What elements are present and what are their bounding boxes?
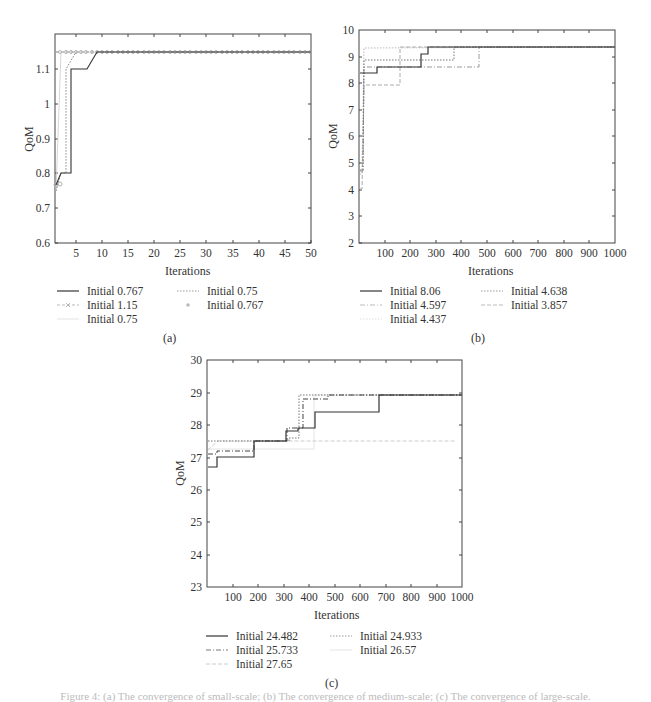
x-tick: 600 xyxy=(351,591,369,603)
dotted-light-line-icon xyxy=(360,315,382,323)
series-initial-24.933 xyxy=(208,395,462,441)
panel-label-b: (b) xyxy=(471,331,485,346)
legend-label: Initial 0.767 xyxy=(87,285,143,297)
legend-label: Initial 4.437 xyxy=(390,313,446,325)
y-tick: 0.9 xyxy=(36,133,51,145)
dotted-line-icon xyxy=(481,287,503,295)
y-tick: 7 xyxy=(348,104,354,116)
series-initial-0.75-thin xyxy=(56,52,311,191)
legend-label: Initial 24.482 xyxy=(236,630,298,642)
legend-label: Initial 25.733 xyxy=(236,644,298,656)
y-tick: 0.8 xyxy=(36,167,51,179)
legend-item: Initial 24.933 xyxy=(330,630,422,642)
thin-line-icon xyxy=(330,646,352,654)
x-tick: 300 xyxy=(275,591,293,603)
legend-item: Initial 4.638 xyxy=(481,285,567,297)
x-tick: 500 xyxy=(478,247,496,259)
legend-label: Initial 4.638 xyxy=(511,285,567,297)
legend-label: Initial 4.597 xyxy=(390,299,446,311)
x-tick: 400 xyxy=(300,591,318,603)
chart-panel-c: 23 24 25 26 27 28 29 30 100 200 300 400 … xyxy=(160,350,500,690)
legend-label: Initial 24.933 xyxy=(360,630,422,642)
x-tick: 35 xyxy=(227,247,239,259)
y-tick: 24 xyxy=(191,549,203,561)
x-tick: 300 xyxy=(427,247,445,259)
legend-item: Initial 0.75 xyxy=(57,313,137,325)
figure-caption: Figure 4: (a) The convergence of small-s… xyxy=(0,690,651,702)
dash-x-marker-icon xyxy=(57,301,79,309)
chart-panel-b: 2 3 4 5 6 7 8 9 10 100 200 300 400 500 6… xyxy=(320,0,651,360)
y-tick: 8 xyxy=(348,77,354,89)
y-tick: 1.1 xyxy=(36,63,51,75)
plot-b: 2 3 4 5 6 7 8 9 10 100 200 300 400 500 6… xyxy=(320,0,651,260)
dashdot-line-icon xyxy=(360,301,382,309)
y-tick: 27 xyxy=(191,452,203,464)
legend-item: Initial 0.75 xyxy=(177,285,257,297)
legend-a: Initial 0.767 Initial 0.75 Initial 1.15 … xyxy=(57,283,317,343)
panel-label-a: (a) xyxy=(163,331,176,346)
y-tick: 23 xyxy=(191,581,203,593)
legend-label: Initial 8.06 xyxy=(390,285,440,297)
dashed-line-icon xyxy=(481,301,503,309)
x-axis-label: Iterations xyxy=(165,264,210,279)
legend-label: Initial 1.15 xyxy=(87,299,137,311)
x-tick: 40 xyxy=(253,247,265,259)
x-tick: 15 xyxy=(122,247,134,259)
legend-item: Initial 25.733 xyxy=(206,644,298,656)
x-tick: 200 xyxy=(401,247,419,259)
y-axis-label: QoM xyxy=(22,126,36,152)
x-tick: 900 xyxy=(580,247,598,259)
series-initial-24.482 xyxy=(208,395,462,467)
legend-label: Initial 27.65 xyxy=(236,658,292,670)
series-initial-3.857 xyxy=(360,47,615,189)
y-tick: 5 xyxy=(348,157,354,169)
x-tick: 20 xyxy=(148,247,160,259)
y-tick: 28 xyxy=(191,419,203,431)
legend-item: Initial 0.767 xyxy=(57,285,143,297)
legend-label: Initial 3.857 xyxy=(511,299,567,311)
legend-item: Initial 4.437 xyxy=(360,313,446,325)
x-tick: 10 xyxy=(96,247,108,259)
x-tick: 900 xyxy=(428,591,446,603)
y-tick: 4 xyxy=(348,184,354,196)
thin-line-icon xyxy=(57,315,79,323)
plot-c: 23 24 25 26 27 28 29 30 100 200 300 400 … xyxy=(160,350,500,610)
y-tick: 30 xyxy=(191,354,203,366)
series-initial-4.638 xyxy=(360,47,615,170)
legend-item: Initial 3.857 xyxy=(481,299,567,311)
legend-label: Initial 0.767 xyxy=(207,299,263,311)
y-tick: 29 xyxy=(191,387,203,399)
x-tick: 200 xyxy=(249,591,267,603)
solid-line-icon xyxy=(206,632,228,640)
y-tick: 0.7 xyxy=(36,202,51,214)
x-tick: 100 xyxy=(224,591,242,603)
series-initial-25.733 xyxy=(208,395,462,454)
legend-item: Initial 0.767 xyxy=(177,299,263,311)
x-tick: 5 xyxy=(73,247,79,259)
solid-line-icon xyxy=(57,287,79,295)
legend-label: Initial 0.75 xyxy=(87,313,137,325)
dashdot-line-icon xyxy=(206,646,228,654)
x-axis-label: Iterations xyxy=(314,608,359,623)
circle-marker-icon xyxy=(177,301,199,309)
y-axis-label: QoM xyxy=(326,123,340,149)
y-tick: 0.6 xyxy=(36,237,51,249)
x-tick: 100 xyxy=(376,247,394,259)
y-tick: 6 xyxy=(348,130,354,142)
x-tick: 1000 xyxy=(451,591,474,603)
x-tick: 600 xyxy=(504,247,522,259)
x-tick: 500 xyxy=(326,591,344,603)
series-initial-4.597 xyxy=(360,47,615,171)
x-axis-label: Iterations xyxy=(468,264,513,279)
series-initial-4.437 xyxy=(360,47,615,174)
y-axis-label: QoM xyxy=(173,460,187,486)
legend-item: Initial 27.65 xyxy=(206,658,292,670)
legend-item: Initial 8.06 xyxy=(360,285,440,297)
x-tick: 50 xyxy=(305,247,317,259)
y-tick: 3 xyxy=(348,210,354,222)
x-tick: 400 xyxy=(452,247,470,259)
legend-label: Initial 0.75 xyxy=(207,285,257,297)
solid-line-icon xyxy=(360,287,382,295)
x-tick: 1000 xyxy=(604,247,627,259)
panel-label-c: (c) xyxy=(325,676,338,691)
